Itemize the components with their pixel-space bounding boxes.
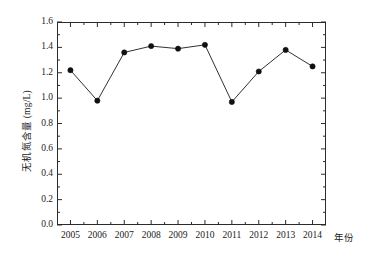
x-axis-tick-label: 2010 [195, 230, 214, 240]
y-axis-tick-label: 1.4 [9, 43, 53, 53]
x-axis-tick-label: 2008 [142, 230, 161, 240]
x-axis-tick-label: 2006 [88, 230, 107, 240]
chart-container: 0.00.20.40.60.81.01.21.41.6 200520062007… [0, 0, 367, 263]
plot-frame [57, 22, 326, 225]
y-axis-tick-label: 1.6 [9, 17, 53, 27]
x-axis-tick-label: 2005 [61, 230, 80, 240]
x-axis-tick-label: 2007 [115, 230, 134, 240]
y-axis-tick-label: 0.0 [9, 220, 53, 230]
x-axis-tick-label: 2011 [223, 230, 242, 240]
x-axis-tick-label: 2013 [276, 230, 295, 240]
x-axis-tick-label: 2012 [249, 230, 268, 240]
y-axis-title: 无机氮含量 (mg/L) [19, 61, 33, 201]
x-axis-title: 年份 [334, 230, 354, 244]
x-axis-tick-label: 2014 [303, 230, 322, 240]
x-axis-tick-label: 2009 [169, 230, 188, 240]
